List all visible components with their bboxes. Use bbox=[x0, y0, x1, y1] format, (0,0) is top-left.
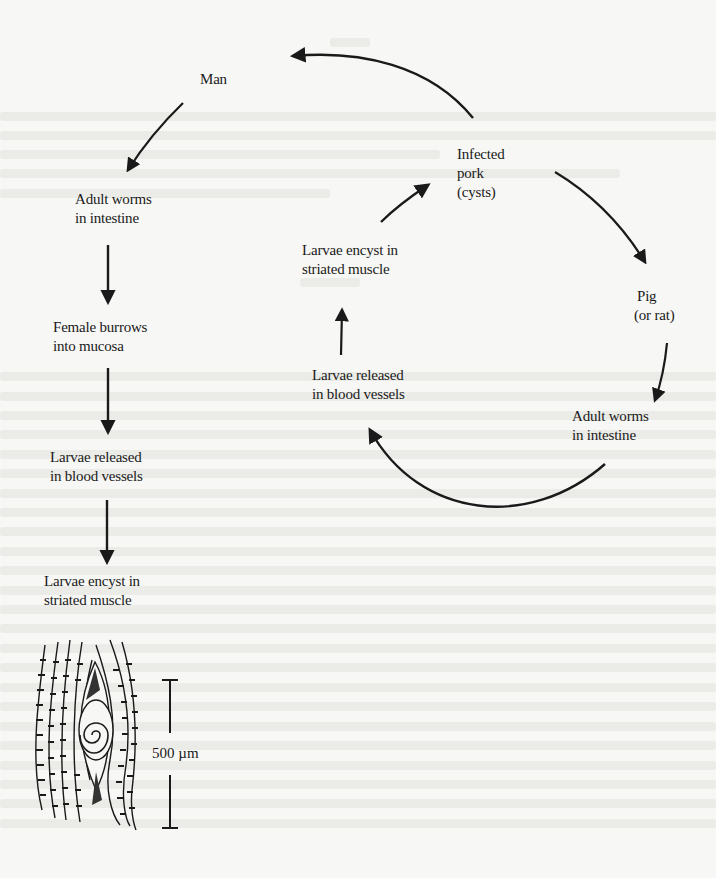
label-man: Man bbox=[200, 70, 227, 89]
label-larvae-released-left: Larvae released in blood vessels bbox=[50, 448, 143, 486]
label-larvae-released-right: Larvae released in blood vessels bbox=[312, 366, 405, 404]
arrow-man-to-adult-worms bbox=[128, 103, 183, 170]
arrow-pork-to-man bbox=[293, 55, 473, 118]
label-infected-pork: Infected pork (cysts) bbox=[457, 145, 505, 202]
scale-bar-label: 500 µm bbox=[152, 745, 199, 762]
label-female-burrows: Female burrows into mucosa bbox=[53, 318, 147, 356]
arrow-pig-to-adult bbox=[655, 343, 667, 400]
label-adult-worms-right: Adult worms in intestine bbox=[572, 407, 649, 445]
label-pig: Pig (or rat) bbox=[634, 287, 674, 325]
arrow-pork-to-pig bbox=[555, 172, 645, 262]
label-adult-worms-left: Adult worms in intestine bbox=[75, 190, 152, 228]
arrow-larvae-to-encyst-right bbox=[341, 310, 342, 355]
muscle-cyst-illustration bbox=[36, 640, 138, 830]
label-larvae-encyst-left: Larvae encyst in striated muscle bbox=[44, 572, 140, 610]
arrow-encyst-to-pork bbox=[381, 185, 428, 222]
label-larvae-encyst-right: Larvae encyst in striated muscle bbox=[302, 241, 398, 279]
arrow-adult-to-larvae bbox=[370, 430, 605, 507]
